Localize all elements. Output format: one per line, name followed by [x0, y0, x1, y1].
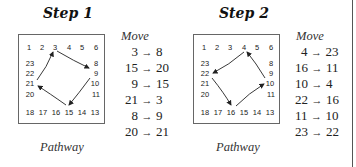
move-row: 16 → 11 [295, 60, 339, 76]
move-row: 8 → 9 [120, 108, 176, 124]
move-to: 8 [156, 44, 176, 60]
move-to: 23 [326, 44, 339, 60]
arrow-icon: → [308, 76, 326, 92]
move-from: 22 [295, 92, 308, 108]
step-2-moves: Move 4 → 23 16 → 11 10 → 4 22 → 16 11 → … [295, 29, 339, 140]
moves-header: Move [296, 29, 339, 44]
move-to: 20 [156, 60, 176, 76]
move-from: 23 [295, 124, 308, 140]
move-to: 11 [326, 60, 339, 76]
move-to: 16 [326, 92, 339, 108]
move-from: 15 [120, 60, 138, 76]
move-from: 16 [295, 60, 308, 76]
moves-header: Move [121, 29, 176, 44]
arrow-icon: → [138, 44, 156, 60]
arrow-icon: → [308, 124, 326, 140]
move-from: 21 [120, 92, 138, 108]
step-1-panel: Step 1 1 2 3 4 5 6 23 22 21 20 8 9 10 11… [0, 0, 176, 167]
step-2-title: Step 2 [219, 5, 269, 21]
arrow-icon: → [138, 124, 156, 140]
step-1-title: Step 1 [43, 5, 93, 21]
move-row: 4 → 23 [295, 44, 339, 60]
step-2-grid: 1 2 3 4 5 6 23 22 21 20 8 9 10 11 18 17 … [193, 34, 280, 124]
arrow-icon: → [138, 92, 156, 108]
step-2-caption: Pathway [216, 140, 260, 155]
move-row: 23 → 22 [295, 124, 339, 140]
step-1-caption: Pathway [40, 140, 84, 155]
arrow-icon: → [308, 92, 326, 108]
move-row: 20 → 21 [120, 124, 176, 140]
step-1-moves: Move 3 → 8 15 → 20 9 → 15 21 → 3 8 → 9 2… [120, 29, 176, 140]
move-from: 11 [295, 108, 308, 124]
step-1-pathway-arrows [19, 35, 106, 125]
arrow-icon: → [138, 108, 156, 124]
move-row: 21 → 3 [120, 92, 176, 108]
move-row: 15 → 20 [120, 60, 176, 76]
move-from: 20 [120, 124, 138, 140]
move-from: 8 [120, 108, 138, 124]
move-to: 15 [156, 76, 176, 92]
move-from: 3 [120, 44, 138, 60]
arrow-icon: → [138, 76, 156, 92]
step-2-panel: Step 2 1 2 3 4 5 6 23 22 21 20 8 9 10 11… [176, 0, 352, 167]
move-row: 3 → 8 [120, 44, 176, 60]
move-to: 22 [326, 124, 339, 140]
move-from: 10 [295, 76, 308, 92]
step-1-grid: 1 2 3 4 5 6 23 22 21 20 8 9 10 11 18 17 … [18, 34, 105, 124]
move-to: 4 [326, 76, 333, 92]
arrow-icon: → [308, 108, 326, 124]
arrow-icon: → [308, 44, 326, 60]
move-from: 9 [120, 76, 138, 92]
move-to: 9 [156, 108, 176, 124]
arrow-icon: → [138, 60, 156, 76]
move-row: 22 → 16 [295, 92, 339, 108]
move-row: 9 → 15 [120, 76, 176, 92]
move-to: 10 [326, 108, 339, 124]
move-row: 10 → 4 [295, 76, 339, 92]
move-to: 3 [156, 92, 176, 108]
arrow-icon: → [308, 60, 326, 76]
move-to: 21 [156, 124, 176, 140]
step-2-pathway-arrows [194, 35, 281, 125]
move-row: 11 → 10 [295, 108, 339, 124]
right-border-divider [352, 0, 353, 167]
